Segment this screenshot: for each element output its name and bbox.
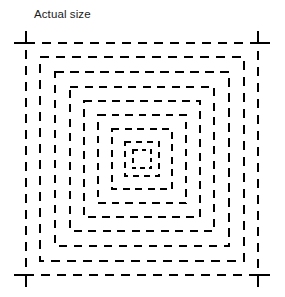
corner-crosshair-group [14,31,270,287]
nested-square-4 [70,87,214,231]
nested-square-3 [55,72,229,246]
nested-square-9 [133,150,151,168]
nested-square-5 [84,101,200,217]
squares-group [26,43,258,275]
nested-square-8 [125,142,159,176]
nested-square-1 [26,43,258,275]
concentric-squares-diagram [0,0,285,297]
nested-square-7 [112,129,172,189]
actual-size-figure: Actual size [0,0,285,297]
